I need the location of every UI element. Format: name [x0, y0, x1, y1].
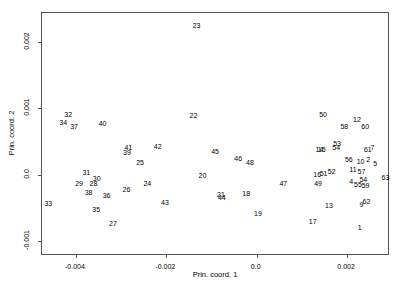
data-point-label: 59: [362, 181, 370, 188]
y-tick-mark: [38, 42, 42, 43]
data-point-label: 27: [109, 220, 117, 227]
data-point-label: 15: [318, 146, 326, 153]
data-point-label: 26: [123, 185, 131, 192]
y-tick-mark: [38, 175, 42, 176]
data-point-label: 12: [353, 115, 361, 122]
data-point-label: 17: [309, 218, 317, 225]
data-point-label: 33: [44, 200, 52, 207]
data-point-label: 32: [64, 110, 72, 117]
scatter-plot-figure: 2332225034124037586053547414261141545394…: [0, 0, 404, 289]
data-point-label: 22: [189, 111, 197, 118]
y-tick-mark: [38, 108, 42, 109]
data-point-label: 50: [319, 111, 327, 118]
data-point-label: 63: [382, 174, 390, 181]
data-point-label: 9: [360, 201, 364, 208]
data-point-label: 28: [90, 180, 98, 187]
data-point-label: 25: [136, 159, 144, 166]
x-tick-label: 0.0: [251, 263, 261, 270]
data-point-label: 11: [349, 166, 356, 173]
data-point-label: 1: [358, 223, 362, 230]
data-point-label: 62: [363, 198, 371, 205]
data-point-label: 49: [314, 179, 322, 186]
data-point-label: 57: [358, 167, 366, 174]
data-point-label: 20: [199, 172, 207, 179]
y-tick-label: -0.001: [23, 230, 30, 250]
data-point-label: 19: [254, 209, 262, 216]
y-axis-title: Prin. coord. 2: [7, 111, 16, 156]
data-point-label: 38: [85, 189, 93, 196]
y-tick-mark: [38, 241, 42, 242]
x-axis-title: Prin. coord. 1: [193, 270, 238, 279]
y-tick-label: 0.002: [23, 32, 30, 50]
data-point-label: 36: [103, 191, 111, 198]
data-point-label: 40: [99, 119, 107, 126]
data-point-label: 2: [366, 155, 370, 162]
data-point-label: 47: [279, 180, 287, 187]
data-point-label: 23: [193, 21, 201, 28]
x-tick-mark: [166, 254, 167, 258]
data-point-label: 24: [143, 179, 151, 186]
data-point-label: 39: [123, 149, 131, 156]
data-point-label: 42: [154, 143, 162, 150]
data-point-label: 13: [325, 201, 333, 208]
data-point-label: 60: [361, 123, 369, 130]
data-point-label: 29: [75, 179, 83, 186]
data-point-label: 4: [349, 178, 353, 185]
x-tick-mark: [76, 254, 77, 258]
x-tick-label: -0.002: [155, 263, 175, 270]
data-point-label: 18: [242, 190, 250, 197]
x-tick-mark: [257, 254, 258, 258]
y-tick-label: 0.0: [23, 169, 30, 179]
data-point-label: 61: [364, 146, 372, 153]
data-point-label: 31: [82, 169, 90, 176]
data-point-label: 5: [373, 159, 377, 166]
x-tick-label: -0.004: [65, 263, 85, 270]
x-tick-label: 0.002: [337, 263, 355, 270]
data-point-label: 52: [328, 167, 336, 174]
data-point-label: 43: [161, 199, 169, 206]
data-point-label: 45: [211, 147, 219, 154]
data-point-label: 34: [59, 119, 67, 126]
data-point-label: 46: [234, 155, 242, 162]
data-point-label: 54: [332, 143, 340, 150]
data-point-label: 37: [70, 123, 78, 130]
y-tick-label: 0.001: [23, 98, 30, 116]
plot-area: 2332225034124037586053547414261141545394…: [41, 12, 389, 255]
data-point-label: 48: [246, 159, 254, 166]
x-tick-mark: [347, 254, 348, 258]
data-point-label: 10: [357, 157, 365, 164]
data-point-label: 58: [340, 122, 348, 129]
data-point-label: 56: [345, 156, 353, 163]
data-point-label: 16: [313, 171, 321, 178]
data-point-label: 44: [218, 193, 226, 200]
data-point-label: 35: [92, 206, 100, 213]
data-point-label: 55: [354, 181, 362, 188]
